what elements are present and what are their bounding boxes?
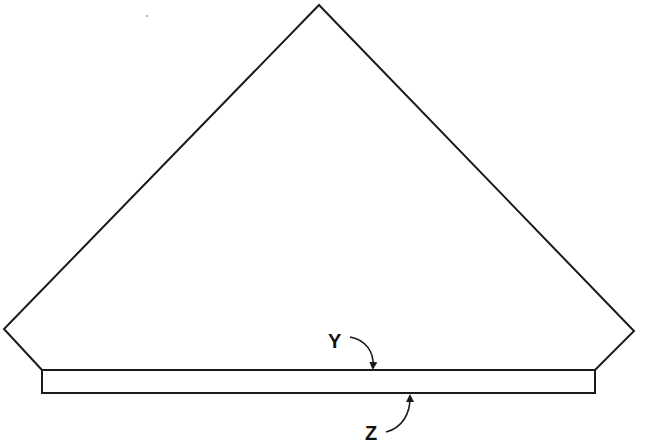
y-arrow bbox=[350, 337, 373, 366]
y-label: Y bbox=[328, 330, 342, 352]
diagram-canvas: Y Z bbox=[0, 0, 646, 443]
z-label: Z bbox=[365, 422, 377, 443]
base-strip bbox=[42, 370, 595, 393]
z-arrow bbox=[386, 398, 410, 432]
speck-dot bbox=[146, 15, 148, 17]
prism-outline bbox=[4, 5, 634, 370]
